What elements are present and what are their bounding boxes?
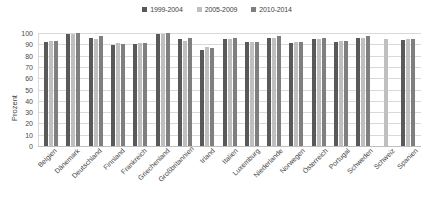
y-tick-label: 40 [25,97,33,104]
bar[interactable] [294,42,298,146]
bar[interactable] [223,39,227,146]
bar-group [129,33,151,146]
legend-label: 2010-2014 [259,6,292,13]
bar[interactable] [384,39,388,146]
bar[interactable] [121,44,125,146]
legend-swatch-icon [251,7,256,12]
bar[interactable] [344,41,348,146]
bar[interactable] [366,36,370,146]
y-tick-label: 0 [29,143,33,150]
y-tick-label: 100 [21,30,33,37]
y-tick-label: 90 [25,41,33,48]
bar-group [397,33,419,146]
bar[interactable] [267,38,271,146]
legend-item-1999-2004[interactable]: 1999-2004 [142,6,183,13]
bar[interactable] [49,41,53,146]
bar[interactable] [133,44,137,146]
bar[interactable] [272,38,276,146]
bar[interactable] [143,43,147,146]
y-tick-label: 20 [25,120,33,127]
bar[interactable] [277,36,281,146]
bar[interactable] [66,34,70,146]
bar-group [241,33,263,146]
bar[interactable] [339,41,343,146]
legend-swatch-icon [142,7,147,12]
bar[interactable] [161,34,165,146]
bar-group [62,33,84,146]
bar[interactable] [255,42,259,146]
bar[interactable] [200,50,204,146]
bar[interactable] [138,43,142,146]
bar[interactable] [228,39,232,146]
bar[interactable] [111,45,115,146]
legend-swatch-icon [197,7,202,12]
bar[interactable] [406,39,410,146]
plot-area [38,33,421,146]
legend-item-2010-2014[interactable]: 2010-2014 [251,6,292,13]
bar[interactable] [188,38,192,146]
bar[interactable] [322,38,326,146]
bar[interactable] [166,33,170,146]
bar[interactable] [89,38,93,146]
legend-label: 1999-2004 [150,6,183,13]
bar[interactable] [299,42,303,146]
y-axis-ticks: 1009080706050403020100 [0,33,36,146]
y-tick-label: 70 [25,63,33,70]
bar-group [352,33,374,146]
y-tick-label: 60 [25,75,33,82]
bar-group [196,33,218,146]
bar[interactable] [233,38,237,146]
bar[interactable] [54,41,58,146]
bar-group [263,33,285,146]
bar[interactable] [356,38,360,146]
bar[interactable] [76,33,80,146]
y-tick-label: 50 [25,86,33,93]
bar[interactable] [116,43,120,146]
bar[interactable] [178,39,182,146]
bar[interactable] [99,36,103,146]
bar-group [85,33,107,146]
y-tick-label: 10 [25,131,33,138]
bar[interactable] [317,39,321,146]
legend-label: 2005-2009 [205,6,238,13]
bar[interactable] [183,41,187,146]
bar-group [285,33,307,146]
bar[interactable] [334,42,338,146]
bar-group [218,33,240,146]
bar[interactable] [94,39,98,146]
bar-chart: 1999-2004 2005-2009 2010-2014 Prozent 10… [0,0,434,215]
bar[interactable] [361,38,365,146]
bar[interactable] [205,47,209,146]
bar-group [374,33,396,146]
bar[interactable] [411,39,415,146]
bar-group [330,33,352,146]
bar[interactable] [71,34,75,146]
bar-group [40,33,62,146]
bar[interactable] [210,48,214,146]
bar[interactable] [250,42,254,146]
x-axis-categories: BelgienDänemarkDeutschlandFinnlandFrankr… [38,147,421,215]
chart-legend: 1999-2004 2005-2009 2010-2014 [0,6,434,13]
y-tick-label: 30 [25,109,33,116]
bar-group [308,33,330,146]
y-tick-label: 80 [25,52,33,59]
bar[interactable] [312,39,316,146]
bar[interactable] [289,43,293,146]
bar-group [151,33,173,146]
bar-groups [38,33,421,146]
bar-group [174,33,196,146]
bar-group [107,33,129,146]
legend-item-2005-2009[interactable]: 2005-2009 [197,6,238,13]
bar[interactable] [245,42,249,146]
bar[interactable] [156,34,160,146]
bar[interactable] [401,40,405,146]
bar[interactable] [44,42,48,146]
